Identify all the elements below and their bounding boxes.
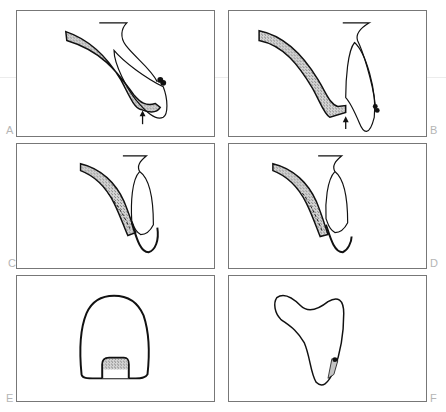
hatched-tissue-band (81, 164, 136, 236)
hatched-inset (102, 358, 129, 379)
tooth-base-outline (326, 225, 352, 253)
panel-d (228, 143, 427, 269)
panel-c-drawing (17, 144, 214, 268)
nodule-2 (160, 80, 166, 86)
gingiva-line (99, 23, 157, 82)
panel-a-drawing (17, 11, 214, 136)
panel-d-drawing (229, 144, 426, 268)
gingiva-line (318, 156, 342, 172)
panel-label-e: E (6, 392, 13, 404)
panel-b (228, 10, 427, 137)
panel-label-f: F (430, 392, 437, 404)
panel-label-a: A (6, 124, 13, 136)
panel-e (16, 275, 215, 402)
tooth-outline (346, 42, 375, 131)
panel-e-drawing (17, 276, 214, 401)
panel-label-c: C (8, 257, 16, 269)
tooth-base-outline (132, 223, 158, 253)
panel-a (16, 10, 215, 137)
panel-b-drawing (229, 11, 426, 136)
tooth-crown-outline (131, 172, 153, 235)
tooth-crown-outline (326, 172, 348, 233)
panel-label-d: D (430, 257, 438, 269)
nodule-2 (375, 108, 380, 113)
arrow-up-icon (343, 116, 349, 129)
hatched-tissue-band (66, 32, 160, 112)
panel-f-drawing (229, 276, 426, 401)
panel-label-b: B (430, 124, 437, 136)
panel-c (16, 143, 215, 269)
arrow-up-icon (140, 110, 146, 124)
panel-f (228, 275, 427, 402)
shaded-tab (328, 357, 338, 378)
gingiva-line (123, 156, 147, 172)
hatched-tissue-band (259, 31, 346, 118)
